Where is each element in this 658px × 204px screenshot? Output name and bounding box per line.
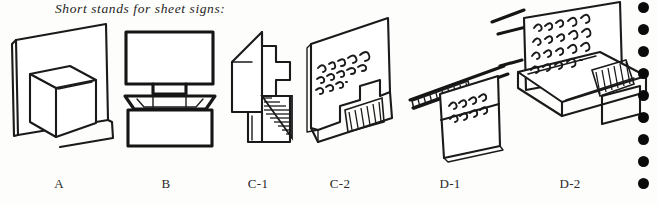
figure-b-drawing [125, 32, 215, 146]
figure-label-b: B [162, 176, 171, 192]
binding-dot [638, 112, 649, 123]
figure-label-c2: C-2 [330, 176, 350, 192]
line-drawings-svg [0, 0, 658, 204]
binding-dot [638, 178, 649, 189]
binding-dot [638, 134, 649, 145]
figure-drawings-row [0, 0, 658, 204]
figure-c2-drawing [307, 18, 392, 142]
figure-a-drawing [12, 24, 113, 147]
binding-dot [638, 90, 649, 101]
binding-dot [638, 68, 649, 79]
figure-label-d1: D-1 [439, 176, 460, 192]
binding-hole-dots [634, 0, 658, 204]
binding-dot [638, 2, 649, 13]
figure-label-c1: C-1 [248, 176, 268, 192]
binding-dot [638, 156, 649, 167]
binding-dot [638, 46, 649, 57]
figure-label-d2: D-2 [559, 176, 580, 192]
figure-label-a: A [54, 176, 64, 192]
figure-plate: Short stands for sheet signs: [0, 0, 658, 204]
figure-c1-drawing [232, 32, 292, 142]
figure-d2-drawing [498, 2, 646, 124]
binding-dot [638, 24, 649, 35]
